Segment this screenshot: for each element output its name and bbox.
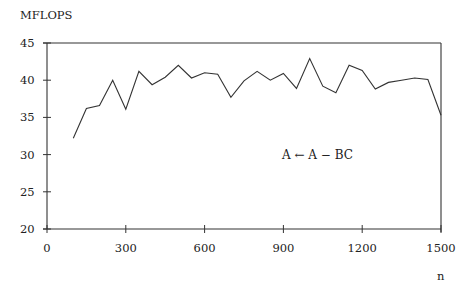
- x-tick-label: 1500: [426, 241, 455, 255]
- formula-annotation: A ← A − BC: [281, 148, 353, 162]
- plot-frame: [43, 43, 441, 232]
- y-tick-label: 40: [20, 73, 35, 87]
- x-tick-label: 0: [43, 241, 50, 255]
- y-tick-label: 20: [20, 222, 35, 236]
- y-tick-label: 30: [20, 148, 35, 162]
- x-tick-label: 1200: [348, 241, 377, 255]
- mflops-line: [73, 59, 441, 139]
- y-axis-title: MFLOPS: [20, 8, 73, 22]
- x-tick-label: 900: [272, 241, 294, 255]
- x-axis-title: n: [437, 269, 445, 283]
- y-tick-label: 35: [20, 110, 35, 124]
- x-tick-label: 600: [194, 241, 216, 255]
- y-tick-label: 25: [20, 185, 35, 199]
- x-tick-label: 300: [115, 241, 137, 255]
- y-tick-label: 45: [20, 36, 35, 50]
- y-axis: 202530354045: [20, 36, 51, 236]
- line-chart: MFLOPS 202530354045 030060090012001500 A…: [0, 0, 468, 289]
